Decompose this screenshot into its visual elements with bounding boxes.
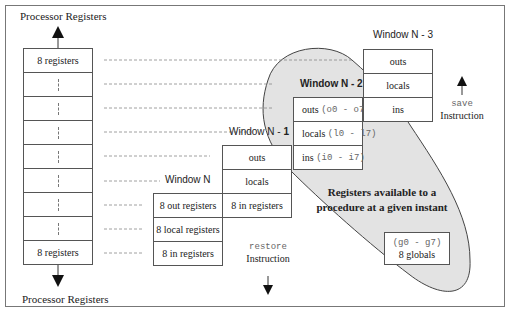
available-registers-label: Registers available to a procedure at a … [312, 185, 452, 215]
save-label: Instruction [437, 110, 487, 122]
register-row [23, 121, 93, 145]
window-n2-outs: outs (o0 - o7) [293, 97, 363, 122]
register-row [23, 73, 93, 97]
window-n3-title: Window N - 3 [373, 29, 433, 40]
register-row [23, 193, 93, 217]
n2-outs-label: outs [302, 104, 319, 115]
save-mnemonic: save [437, 98, 487, 110]
window-n2-locals: locals (l0 - l7) [293, 122, 363, 146]
window-n-ins: 8 in registers [153, 242, 223, 266]
n2-locals-label: locals [302, 128, 325, 139]
top-processor-registers-label: Processor Registers [20, 10, 106, 22]
n2-locals-range: (l0 - l7) [328, 129, 377, 139]
save-arrow-icon [457, 76, 467, 86]
window-n1-title-text: Window N - [229, 126, 283, 137]
window-n1-title: Window N - 1 [229, 126, 289, 137]
restore-instruction-label: restore Instruction [243, 241, 293, 265]
window-n3-outs: outs [363, 49, 433, 74]
available-line2: procedure at a given instant [312, 200, 452, 215]
bottom-processor-registers-label: Processor Registers [22, 293, 108, 305]
restore-mnemonic: restore [243, 241, 293, 253]
restore-label: Instruction [243, 253, 293, 265]
available-line1: Registers available to a [312, 185, 452, 200]
window-n1-title-number: 1 [283, 126, 289, 137]
n2-ins-label: ins [302, 152, 314, 163]
register-row [23, 217, 93, 241]
window-n1-ins: 8 in registers [222, 194, 292, 218]
save-instruction-label: save Instruction [437, 98, 487, 122]
globals-box: (g0 - g7) 8 globals [384, 232, 450, 265]
window-n1-outs: outs [222, 145, 292, 170]
arrow-down-icon [52, 275, 64, 287]
window-n2-ins: ins (i0 - i7) [293, 146, 363, 170]
register-row [23, 145, 93, 169]
window-n2-title: Window N - 2 [300, 78, 363, 89]
restore-arrow-icon [263, 285, 273, 295]
window-n-title: Window N [165, 174, 211, 185]
window-n-outs: 8 out registers [153, 193, 223, 218]
window-n-locals: 8 local registers [153, 218, 223, 242]
n2-ins-range: (i0 - i7) [316, 153, 365, 163]
globals-label: 8 globals [399, 249, 435, 260]
arrow-up-icon [52, 26, 64, 38]
window-n3-ins: ins [363, 98, 433, 122]
register-row [23, 169, 93, 193]
globals-range: (g0 - g7) [393, 238, 442, 249]
register-row [23, 97, 93, 121]
window-n3-locals: locals [363, 74, 433, 98]
register-row: 8 registers [23, 241, 93, 265]
window-n1-locals: locals [222, 170, 292, 194]
register-row: 8 registers [23, 48, 93, 73]
